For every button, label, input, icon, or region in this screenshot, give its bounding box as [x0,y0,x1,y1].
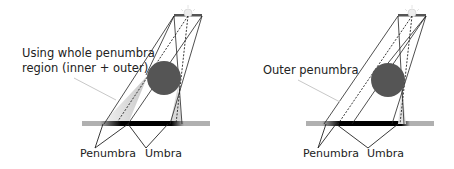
panel-outer-penumbra: Outer penumbra Penumbra Umbra [263,5,434,160]
annotation-line-1: Outer penumbra [263,63,359,77]
annotation-arrow [74,78,116,100]
panel-whole-penumbra: Using whole penumbra region (inner + out… [22,5,210,160]
shadow-band [100,121,184,126]
occluder-sphere [371,63,405,97]
annotation-line-2: region (inner + outer) [22,61,148,75]
label-penumbra: Penumbra [80,147,136,160]
label-penumbra: Penumbra [303,147,359,160]
penumbra-diagram: Using whole penumbra region (inner + out… [0,0,454,169]
occluder-sphere [147,61,181,95]
label-umbra: Umbra [367,147,404,160]
annotation-line-1: Using whole penumbra [22,46,155,60]
annotation-arrow [298,80,340,102]
label-umbra: Umbra [145,147,182,160]
